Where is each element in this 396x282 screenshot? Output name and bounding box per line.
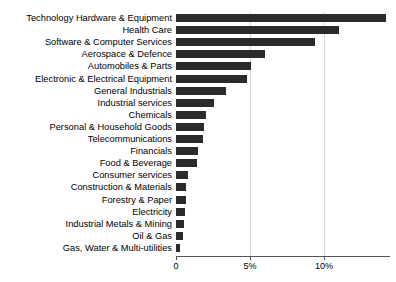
bar <box>176 196 186 204</box>
bar <box>176 75 247 83</box>
bar <box>176 123 204 131</box>
chart-row: Oil & Gas <box>0 230 396 242</box>
chart-row: Financials <box>0 145 396 157</box>
category-label: Construction & Materials <box>0 181 172 193</box>
category-label: Consumer services <box>0 169 172 181</box>
x-axis-line <box>176 256 390 257</box>
bar <box>176 208 185 216</box>
x-tick-label: 10% <box>315 261 333 272</box>
bar <box>176 159 197 167</box>
chart-row: Industrial services <box>0 97 396 109</box>
category-label: Electronic & Electrical Equipment <box>0 73 172 85</box>
chart-row: General Industrials <box>0 85 396 97</box>
chart-row: Software & Computer Services <box>0 36 396 48</box>
bar <box>176 232 183 240</box>
category-label: Forestry & Paper <box>0 194 172 206</box>
bar <box>176 87 226 95</box>
category-label: Technology Hardware & Equipment <box>0 12 172 24</box>
bar <box>176 99 214 107</box>
bar <box>176 147 198 155</box>
horizontal-bar-chart: Technology Hardware & EquipmentHealth Ca… <box>0 0 396 282</box>
category-label: Industrial services <box>0 97 172 109</box>
category-label: Financials <box>0 145 172 157</box>
chart-row: Electronic & Electrical Equipment <box>0 73 396 85</box>
chart-row: Health Care <box>0 24 396 36</box>
bar <box>176 244 180 252</box>
category-label: Personal & Household Goods <box>0 121 172 133</box>
category-label: Software & Computer Services <box>0 36 172 48</box>
bar <box>176 38 315 46</box>
chart-row: Aerospace & Defence <box>0 48 396 60</box>
chart-row: Gas, Water & Multi-utilities <box>0 242 396 254</box>
bar <box>176 50 265 58</box>
chart-row: Forestry & Paper <box>0 194 396 206</box>
bar <box>176 14 386 22</box>
category-label: General Industrials <box>0 85 172 97</box>
category-label: Telecommunications <box>0 133 172 145</box>
chart-row: Automobiles & Parts <box>0 60 396 72</box>
bar <box>176 26 339 34</box>
bar <box>176 183 186 191</box>
chart-row: Technology Hardware & Equipment <box>0 12 396 24</box>
category-label: Gas, Water & Multi-utilities <box>0 242 172 254</box>
bar <box>176 220 184 228</box>
chart-row: Chemicals <box>0 109 396 121</box>
bar <box>176 111 206 119</box>
chart-row: Consumer services <box>0 169 396 181</box>
chart-row: Industrial Metals & Mining <box>0 218 396 230</box>
chart-row: Personal & Household Goods <box>0 121 396 133</box>
category-label: Food & Beverage <box>0 157 172 169</box>
x-tick-mark <box>324 256 325 260</box>
bar <box>176 62 251 70</box>
chart-row: Food & Beverage <box>0 157 396 169</box>
chart-row: Telecommunications <box>0 133 396 145</box>
chart-row: Construction & Materials <box>0 181 396 193</box>
bar <box>176 171 188 179</box>
category-label: Oil & Gas <box>0 230 172 242</box>
category-label: Automobiles & Parts <box>0 60 172 72</box>
category-label: Industrial Metals & Mining <box>0 218 172 230</box>
category-label: Electricity <box>0 206 172 218</box>
x-tick-label: 0 <box>173 261 178 272</box>
x-tick-mark <box>250 256 251 260</box>
category-label: Health Care <box>0 24 172 36</box>
category-label: Chemicals <box>0 109 172 121</box>
bar <box>176 135 203 143</box>
chart-row: Electricity <box>0 206 396 218</box>
category-label: Aerospace & Defence <box>0 48 172 60</box>
x-tick-label: 5% <box>243 261 256 272</box>
x-tick-mark <box>176 256 177 260</box>
